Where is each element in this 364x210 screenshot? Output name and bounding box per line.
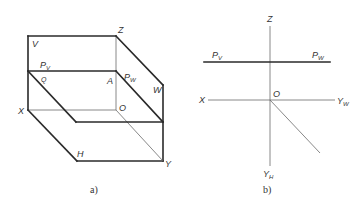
plane-p-left-edge [28,71,76,122]
45-degree-line [270,100,320,153]
h-plane-left-edge [28,110,77,161]
label-z: Z [266,14,273,24]
label-x: X [17,106,25,116]
label-pv-sub: V [46,65,51,71]
label-o: O [119,103,126,113]
caption-a: a) [90,184,98,196]
figure-a: Z V P V Q A P W W X O H Y a) [17,25,172,196]
label-a: A [106,76,113,86]
label-yh-sub: H [269,174,274,180]
projection-diagram: Z V P V Q A P W W X O H Y a) Z P V P W X… [0,0,364,210]
label-q: Q [41,76,47,84]
label-yw-sub: W [343,101,350,107]
label-v: V [32,39,39,49]
caption-b: b) [263,184,271,196]
label-o: O [273,89,280,99]
label-pw-sub: W [318,55,325,61]
y-axis-line [116,110,163,161]
label-z: Z [117,25,124,35]
label-w: W [153,85,163,95]
label-x: X [198,95,206,105]
figure-b: Z P V P W X O Y W Y H b) [198,14,350,196]
label-y: Y [165,159,172,169]
label-pw-sub: W [130,77,137,83]
label-h: H [77,149,84,159]
label-pv-sub: V [218,55,223,61]
